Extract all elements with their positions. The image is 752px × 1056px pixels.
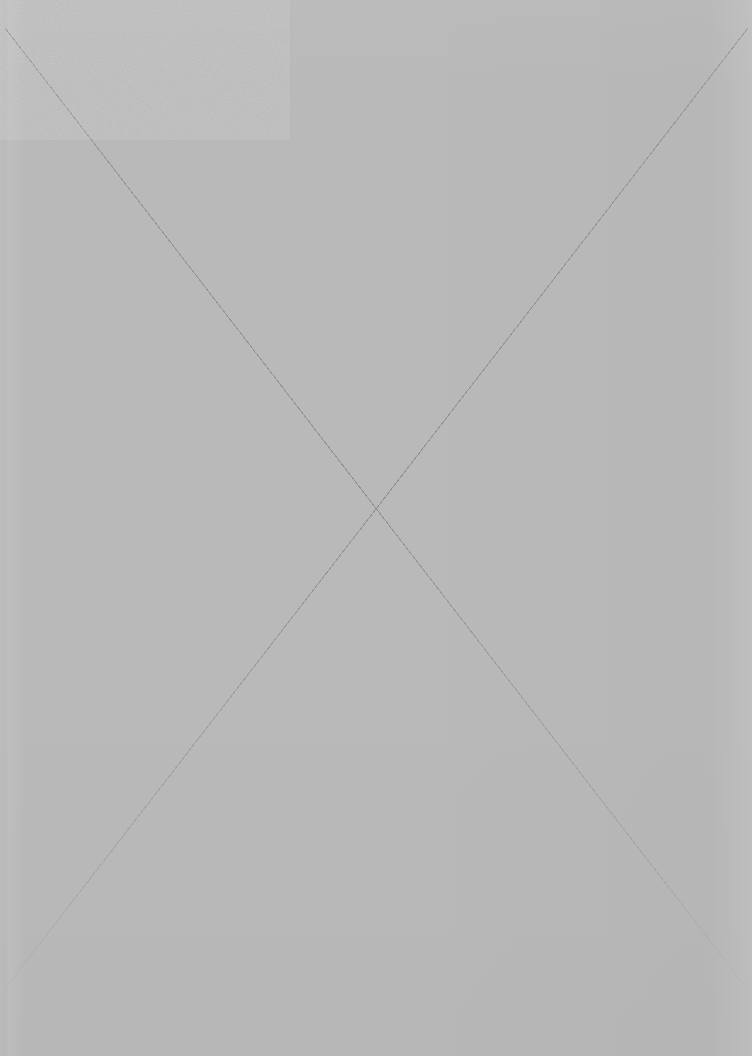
blank-page-placeholder [0, 0, 752, 1056]
page-background [0, 0, 752, 1056]
